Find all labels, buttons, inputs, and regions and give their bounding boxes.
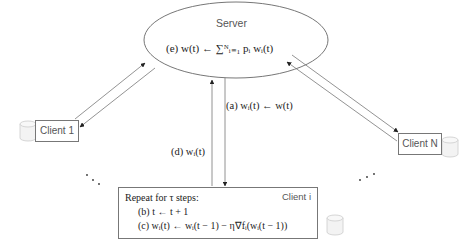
loop-title: Repeat for τ steps: [125,192,199,203]
server-aggregation-formula: (e) w(t) ← ∑ᴺᵢ₌₁ pᵢ wᵢ(t) [166,42,273,55]
edge-label-d: (d) wᵢ(t) [171,146,205,157]
client-i-node: Client i Repeat for τ steps: (b) t ← t +… [118,187,318,239]
client-1-label: Client 1 [36,125,78,136]
server-title: Server [216,17,247,29]
arrow-server-to-client1 [80,68,155,127]
client-1-node: Client 1 [35,120,79,142]
arrow-clientN-to-server [287,62,397,141]
client-n-label: Client N [399,138,441,149]
ellipsis-right [359,173,375,181]
server-node [144,2,328,78]
federated-learning-diagram: Server (e) w(t) ← ∑ᴺᵢ₌₁ pᵢ wᵢ(t) Client … [0,0,475,247]
client-i-label: Client i [282,191,311,202]
ellipsis-left [86,174,100,185]
edge-label-a: (a) wᵢ(t) ← w(t) [226,100,293,111]
database-icon-clientN [442,137,458,157]
database-icon-client1 [20,121,36,141]
arrow-client1-to-server [75,63,145,119]
client-n-node: Client N [398,133,442,155]
database-icon-clienti [327,215,343,235]
arrow-server-to-clientN [292,55,398,132]
step-b: (b) t ← t + 1 [138,206,188,217]
step-c: (c) wᵢ(t) ← wᵢ(t − 1) − η∇fᵢ(wᵢ(t − 1)) [138,220,287,231]
